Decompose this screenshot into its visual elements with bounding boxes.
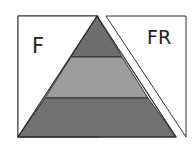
- left-panel-label: F: [32, 34, 44, 58]
- pyramid-band-bottom: [18, 98, 176, 137]
- right-panel-label: FR: [147, 26, 171, 48]
- pyramid-diagram: F FR: [0, 0, 192, 147]
